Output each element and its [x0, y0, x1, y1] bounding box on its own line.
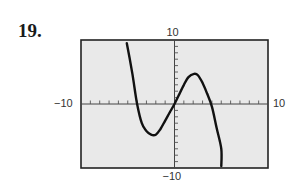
y-min-label: −10 — [163, 171, 182, 182]
graph — [0, 0, 300, 187]
y-max-label: 10 — [167, 27, 179, 38]
x-min-label: −10 — [54, 98, 73, 109]
x-max-label: 10 — [273, 98, 285, 109]
